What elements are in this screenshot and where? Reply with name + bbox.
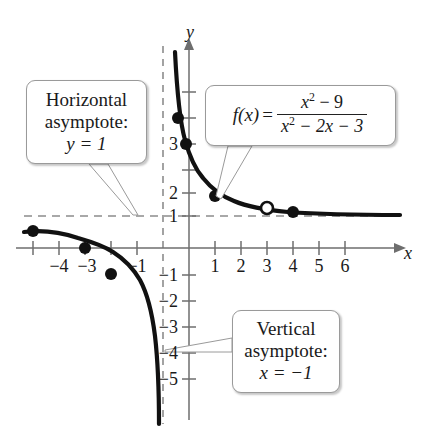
y-axis-label: y bbox=[186, 22, 194, 43]
point-left-neg5 bbox=[27, 225, 39, 237]
formula-callout-leader bbox=[216, 146, 252, 199]
formula-denominator-exponent: 2 bbox=[289, 114, 295, 128]
point-right-y3 bbox=[180, 138, 192, 150]
vertical-callout-line2: asymptote: bbox=[233, 340, 339, 362]
y-tick-label-2: 2 bbox=[160, 183, 178, 204]
function-formula-callout: f(x) = x2 − 9 x2 − 2x − 3 bbox=[205, 85, 396, 146]
x-tick-label-neg3: −3 bbox=[77, 256, 96, 277]
x-tick-label-neg4: −4 bbox=[49, 256, 68, 277]
y-tick-label-3: 3 bbox=[160, 134, 178, 155]
formula-equals: = bbox=[262, 104, 273, 126]
formula-numerator: x2 − 9 bbox=[297, 92, 347, 114]
x-tick-label-1: 1 bbox=[211, 256, 220, 277]
x-tick-label-5: 5 bbox=[315, 256, 324, 277]
x-tick-label-2: 2 bbox=[237, 256, 246, 277]
x-tick-label-3: 3 bbox=[263, 256, 272, 277]
vertical-asymptote-callout: Vertical asymptote: x = −1 bbox=[232, 310, 340, 393]
horizontal-callout-line1: Horizontal bbox=[27, 89, 146, 111]
x-tick-label-4: 4 bbox=[289, 256, 298, 277]
point-left-neg3 bbox=[79, 242, 91, 254]
point-right-x4 bbox=[287, 206, 299, 218]
formula-numerator-x: x bbox=[301, 92, 309, 112]
rational-function-figure: y x −4 −3 −1 1 2 3 4 5 6 3 2 1 −1 −2 −3 … bbox=[0, 0, 426, 429]
y-tick-label-neg5: −5 bbox=[150, 369, 178, 390]
formula-denominator-x: x bbox=[281, 116, 289, 136]
formula-numerator-exponent: 2 bbox=[309, 90, 315, 104]
x-tick-label-6: 6 bbox=[341, 256, 350, 277]
hole-open-circle bbox=[261, 202, 273, 214]
y-tick-label-1: 1 bbox=[160, 206, 178, 227]
y-tick-label-neg4: −4 bbox=[150, 343, 178, 364]
x-tick-label-neg1: −1 bbox=[127, 256, 146, 277]
horizontal-callout-leader bbox=[89, 164, 138, 215]
plot-canvas bbox=[0, 0, 426, 429]
y-tick-label-neg3: −3 bbox=[150, 317, 178, 338]
formula-denominator: x2 − 2x − 3 bbox=[277, 114, 367, 137]
y-tick-label-neg2: −2 bbox=[150, 291, 178, 312]
formula-numerator-rest: − 9 bbox=[319, 92, 343, 112]
x-axis-label: x bbox=[404, 243, 412, 264]
horizontal-asymptote-callout: Horizontal asymptote: y = 1 bbox=[26, 80, 147, 164]
formula-function-name: f(x) bbox=[233, 104, 259, 126]
y-tick-label-neg1: −1 bbox=[150, 265, 178, 286]
vertical-callout-line1: Vertical bbox=[233, 318, 339, 340]
horizontal-callout-equation: y = 1 bbox=[27, 133, 146, 155]
point-right-y4 bbox=[172, 112, 184, 124]
formula-fraction: x2 − 9 x2 − 2x − 3 bbox=[277, 92, 367, 137]
point-left-neg2 bbox=[105, 268, 117, 280]
formula-denominator-rest: − 2x − 3 bbox=[299, 116, 363, 136]
horizontal-callout-line2: asymptote: bbox=[27, 111, 146, 133]
vertical-callout-equation: x = −1 bbox=[233, 362, 339, 384]
